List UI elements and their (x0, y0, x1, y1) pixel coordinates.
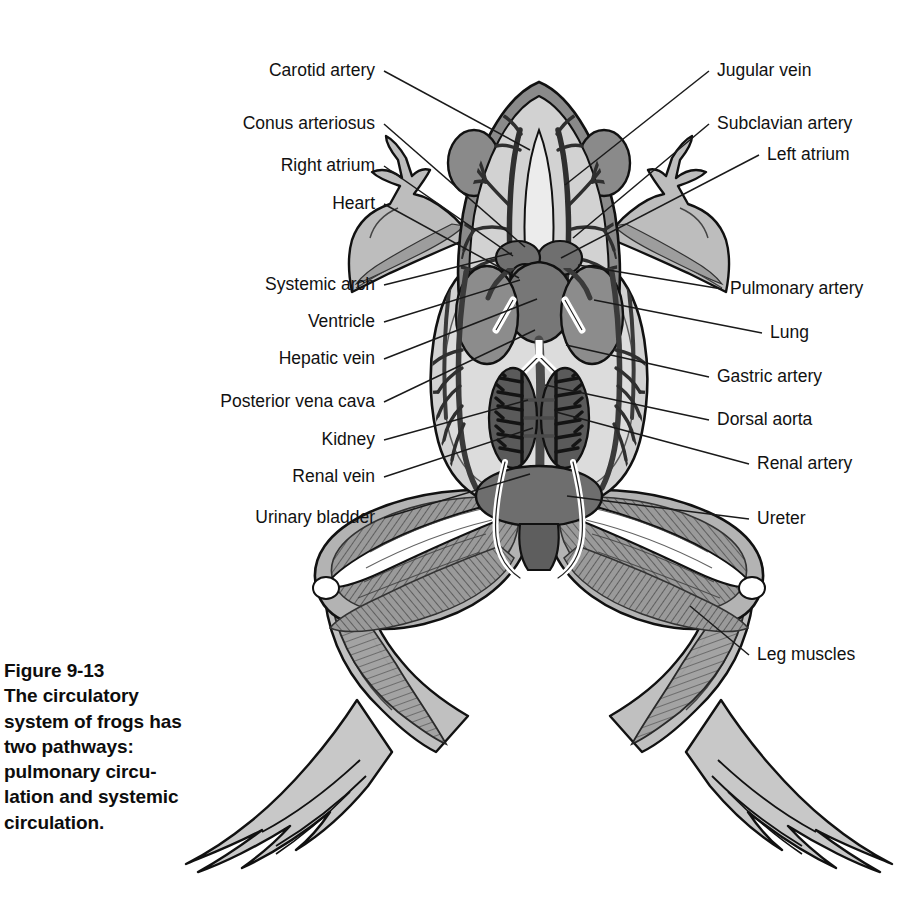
label-dorsal-aorta: Dorsal aorta (717, 411, 812, 429)
label-ureter: Ureter (757, 510, 806, 528)
label-gastric-artery: Gastric artery (717, 368, 822, 386)
label-lung: Lung (770, 324, 809, 342)
label-conus-arteriosus: Conus arteriosus (243, 115, 375, 133)
caption-line: pulmonary circu- (4, 759, 214, 784)
label-carotid-artery: Carotid artery (269, 62, 375, 80)
label-ventricle: Ventricle (308, 313, 375, 331)
label-heart: Heart (332, 195, 375, 213)
hind-limb-left (186, 490, 530, 872)
caption-line: Figure 9-13 (4, 658, 214, 683)
label-systemic-arch: Systemic arch (265, 276, 375, 294)
figure-root: Carotid artery Conus arteriosus Right at… (0, 0, 909, 922)
caption-line: circulation. (4, 810, 214, 835)
label-pulmonary-artery: Pulmonary artery (730, 280, 863, 298)
hind-limb-right (548, 490, 892, 872)
cloaca (519, 524, 558, 570)
caption-line: The circulatory (4, 683, 214, 708)
label-hepatic-vein: Hepatic vein (279, 350, 375, 368)
caption-line: lation and systemic (4, 784, 214, 809)
label-urinary-bladder: Urinary bladder (255, 509, 375, 527)
label-leg-muscles: Leg muscles (757, 646, 855, 664)
caption-line: system of frogs has (4, 709, 214, 734)
label-kidney: Kidney (321, 431, 375, 449)
label-renal-vein: Renal vein (292, 468, 375, 486)
label-left-atrium: Left atrium (767, 146, 850, 164)
label-subclavian-artery: Subclavian artery (717, 115, 852, 133)
figure-caption: Figure 9-13 The circulatory system of fr… (4, 658, 214, 835)
label-posterior-vena-cava: Posterior vena cava (220, 393, 375, 411)
label-jugular-vein: Jugular vein (717, 62, 811, 80)
label-right-atrium: Right atrium (281, 157, 375, 175)
caption-line: two pathways: (4, 734, 214, 759)
label-renal-artery: Renal artery (757, 455, 852, 473)
